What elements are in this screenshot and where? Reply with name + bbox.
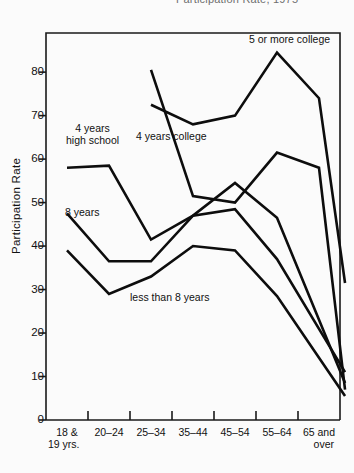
x-axis-tick-label: 55–64 [256,426,298,438]
x-axis-tick-label: 25–34 [130,426,172,438]
y-axis-tick-label: 20 [18,326,44,338]
y-axis-tick-label: 40 [18,239,44,251]
y-axis-tick-label: 80 [18,65,44,77]
series-label-less-than-8-years: less than 8 years [130,291,209,303]
series-label-8-years: 8 years [65,206,99,218]
plot-svg [0,0,354,473]
y-axis-tick-labels: 01020304050607080 [0,0,44,473]
x-tick-line2: 19 yrs. [46,438,88,450]
x-axis-tick-label: 35–44 [172,426,214,438]
series-label-line2: high school [66,134,119,146]
y-axis-tick-label: 30 [18,283,44,295]
x-tick-line1: 20–24 [88,426,130,438]
y-axis-tick-label: 10 [18,370,44,382]
chart-container: Participation Rate, 1975 Participation R… [0,0,354,473]
x-axis-tick-label: 45–54 [214,426,256,438]
series-label-4-years-high-school: 4 yearshigh school [66,122,119,146]
plot-frame [46,33,340,420]
series-label-5-or-more-college: 5 or more college [249,33,330,45]
x-tick-line1: 65 and [298,426,340,438]
series-label-4-years-college: 4 years college [136,130,207,142]
x-axis-tick-label: 65 andover [298,426,340,450]
series-label-line1: 4 years [66,122,119,134]
x-tick-line1: 18 & [46,426,88,438]
x-tick-line1: 45–54 [214,426,256,438]
x-axis-tick-label: 18 &19 yrs. [46,426,88,450]
y-axis-tick-label: 70 [18,109,44,121]
x-tick-line1: 35–44 [172,426,214,438]
x-tick-line2: over [298,438,340,450]
y-axis-tick-label: 0 [18,413,44,425]
x-tick-line1: 55–64 [256,426,298,438]
x-axis-tick-label: 20–24 [88,426,130,438]
x-tick-line1: 25–34 [130,426,172,438]
y-axis-tick-label: 60 [18,152,44,164]
series-line-less-than-8-years [67,246,345,396]
y-axis-tick-label: 50 [18,196,44,208]
